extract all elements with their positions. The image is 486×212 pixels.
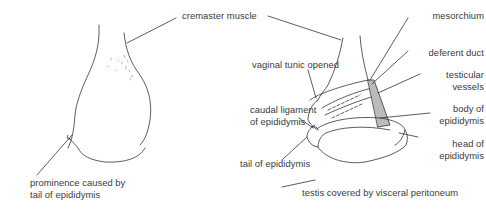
label-caudal-ligament-line2: of epididymis <box>250 116 305 128</box>
label-tail-of-epididymis: tail of epididymis <box>240 158 310 170</box>
label-testicular-vessels-line1: testicular <box>400 69 484 81</box>
label-body-of-epididymis-line1: body of <box>400 103 484 115</box>
label-testicular-vessels-line2: vessels <box>400 81 484 93</box>
label-head-of-epididymis-line1: head of <box>400 138 484 150</box>
label-cremaster-muscle: cremaster muscle <box>182 10 257 22</box>
label-prominence-line1: prominence caused by <box>30 177 125 189</box>
label-body-of-epididymis-line2: epididymis <box>400 115 484 127</box>
label-testis-covered: testis covered by visceral peritoneum <box>302 187 458 199</box>
external-testis-figure <box>37 18 176 175</box>
label-vaginal-tunic-opened: vaginal tunic opened <box>252 59 339 71</box>
label-caudal-ligament-line1: caudal ligament <box>250 104 316 116</box>
label-mesorchium: mesorchium <box>404 10 484 22</box>
label-head-of-epididymis-line2: epididymis <box>400 150 484 162</box>
label-prominence-line2: tail of epididymis <box>30 189 100 201</box>
label-deferent-duct: deferent duct <box>380 47 484 59</box>
testis-anatomy-diagram: cremaster muscle mesorchium deferent duc… <box>0 0 486 212</box>
